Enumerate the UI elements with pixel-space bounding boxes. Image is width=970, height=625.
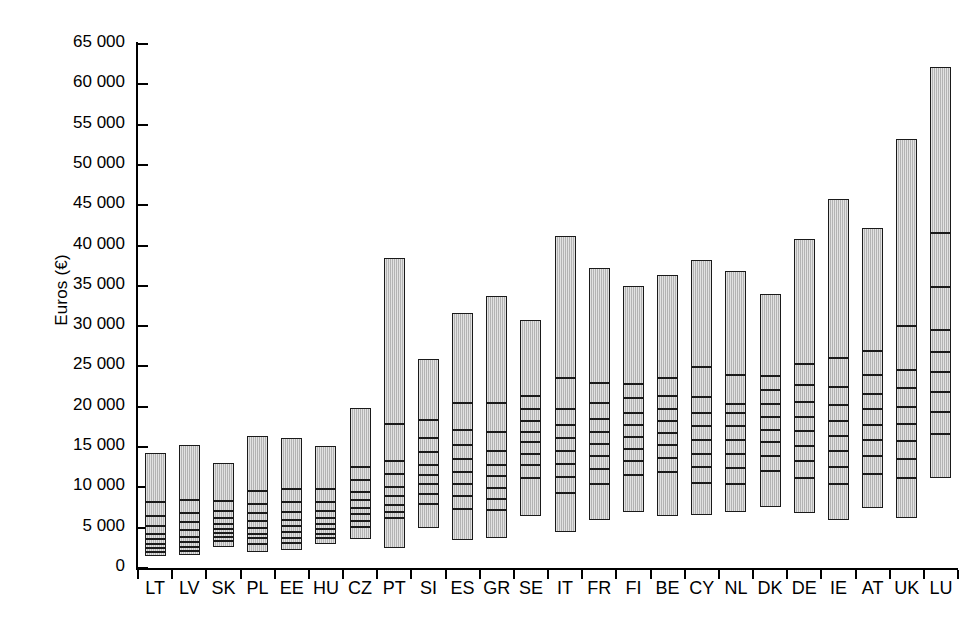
y-tick-mark xyxy=(137,245,148,247)
decile-divider xyxy=(726,483,745,485)
decile-divider xyxy=(180,550,199,552)
decile-divider xyxy=(624,460,643,462)
decile-divider xyxy=(248,537,267,539)
decile-divider xyxy=(863,408,882,410)
decile-range-bar[interactable] xyxy=(452,313,473,540)
decile-range-bar[interactable] xyxy=(930,67,951,478)
decile-divider xyxy=(521,477,540,479)
decile-divider xyxy=(316,501,335,503)
decile-divider xyxy=(624,424,643,426)
decile-range-bar[interactable] xyxy=(520,320,541,516)
decile-divider xyxy=(316,523,335,525)
y-tick-label: 45 000 xyxy=(5,193,125,213)
decile-range-bar[interactable] xyxy=(350,408,371,539)
decile-range-bar[interactable] xyxy=(315,446,336,544)
decile-divider xyxy=(897,369,916,371)
decile-divider xyxy=(248,527,267,529)
decile-range-bar[interactable] xyxy=(213,463,234,547)
decile-range-bar[interactable] xyxy=(555,236,576,532)
decile-divider xyxy=(761,403,780,405)
decile-range-bar[interactable] xyxy=(794,239,815,513)
decile-divider xyxy=(795,401,814,403)
earnings-decile-range-chart: Euros (€) 05 00010 00015 00020 00025 000… xyxy=(0,0,970,625)
y-tick-label: 65 000 xyxy=(5,32,125,52)
decile-divider xyxy=(726,439,745,441)
decile-divider xyxy=(180,499,199,501)
y-tick-mark xyxy=(137,164,148,166)
y-tick-label: 20 000 xyxy=(5,395,125,415)
decile-divider xyxy=(282,542,301,544)
decile-divider xyxy=(726,374,745,376)
decile-divider xyxy=(692,412,711,414)
decile-divider xyxy=(897,423,916,425)
decile-divider xyxy=(897,477,916,479)
decile-range-bar[interactable] xyxy=(828,199,849,520)
decile-divider xyxy=(248,512,267,514)
decile-range-bar[interactable] xyxy=(145,453,166,556)
decile-range-bar[interactable] xyxy=(896,139,917,518)
y-tick-mark xyxy=(137,43,148,45)
y-tick-mark xyxy=(137,325,148,327)
decile-divider xyxy=(146,543,165,545)
decile-divider xyxy=(863,473,882,475)
decile-divider xyxy=(282,537,301,539)
decile-divider xyxy=(282,488,301,490)
decile-divider xyxy=(795,430,814,432)
y-tick-label: 40 000 xyxy=(5,234,125,254)
decile-range-bar[interactable] xyxy=(623,286,644,512)
decile-divider xyxy=(248,490,267,492)
decile-divider xyxy=(487,487,506,489)
decile-divider xyxy=(761,470,780,472)
decile-divider xyxy=(590,468,609,470)
decile-divider xyxy=(453,508,472,510)
decile-divider xyxy=(624,474,643,476)
decile-divider xyxy=(316,537,335,539)
decile-range-bar[interactable] xyxy=(589,268,610,520)
decile-divider xyxy=(658,377,677,379)
decile-range-bar[interactable] xyxy=(384,258,405,548)
decile-range-bar[interactable] xyxy=(486,296,507,539)
decile-divider xyxy=(897,387,916,389)
decile-divider xyxy=(897,325,916,327)
decile-divider xyxy=(590,382,609,384)
decile-divider xyxy=(624,448,643,450)
decile-range-bar[interactable] xyxy=(760,294,781,507)
decile-divider xyxy=(726,453,745,455)
decile-divider xyxy=(556,450,575,452)
decile-divider xyxy=(931,433,950,435)
x-axis-tick xyxy=(957,570,959,579)
decile-divider xyxy=(351,526,370,528)
decile-range-bar[interactable] xyxy=(247,436,268,552)
decile-divider xyxy=(863,374,882,376)
decile-range-bar[interactable] xyxy=(657,275,678,515)
decile-divider xyxy=(419,437,438,439)
decile-divider xyxy=(419,483,438,485)
decile-divider xyxy=(726,403,745,405)
decile-divider xyxy=(863,439,882,441)
decile-divider xyxy=(248,533,267,535)
decile-divider xyxy=(146,547,165,549)
decile-divider xyxy=(590,431,609,433)
decile-range-bar[interactable] xyxy=(725,271,746,511)
decile-divider xyxy=(351,520,370,522)
decile-divider xyxy=(146,551,165,553)
decile-range-bar[interactable] xyxy=(179,445,200,555)
decile-range-bar[interactable] xyxy=(418,359,439,527)
decile-range-bar[interactable] xyxy=(281,438,302,550)
decile-divider xyxy=(795,363,814,365)
y-tick-mark xyxy=(137,567,148,569)
decile-divider xyxy=(351,499,370,501)
decile-divider xyxy=(931,232,950,234)
decile-divider xyxy=(214,510,233,512)
decile-divider xyxy=(795,477,814,479)
decile-divider xyxy=(624,397,643,399)
decile-divider xyxy=(692,396,711,398)
decile-divider xyxy=(590,402,609,404)
decile-divider xyxy=(556,408,575,410)
decile-divider xyxy=(282,525,301,527)
y-tick-label: 25 000 xyxy=(5,354,125,374)
decile-range-bar[interactable] xyxy=(862,228,883,508)
decile-divider xyxy=(761,389,780,391)
decile-divider xyxy=(214,517,233,519)
decile-range-bar[interactable] xyxy=(691,260,712,515)
